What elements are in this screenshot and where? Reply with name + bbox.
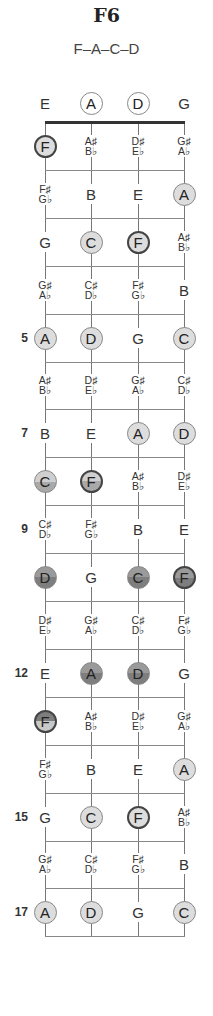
fret-line-7 (45, 457, 185, 458)
fret-cell: F♯G♭ (71, 511, 111, 547)
fret-cell: E (25, 655, 65, 691)
fret-cell: A (25, 320, 65, 356)
note-label: D (179, 425, 190, 442)
fret-cell: D♯E♭ (71, 367, 111, 403)
fret-cell: D♯E♭ (118, 128, 158, 164)
chord-tone-marker: A (127, 422, 150, 445)
flat-name: D♭ (178, 385, 191, 395)
flat-name: G♭ (38, 769, 51, 779)
fret-cell: G♯A♭ (25, 846, 65, 882)
fret-cell: F♯G♭ (118, 846, 158, 882)
note-label: G (39, 810, 51, 825)
chord-tone-marker: A (173, 758, 196, 781)
chord-tone-marker: A (80, 92, 103, 115)
fret-cell: G♯A♭ (71, 607, 111, 643)
chord-tone-marker: A (34, 901, 57, 924)
flat-name: B♭ (178, 817, 190, 827)
root-note-marker: F (80, 470, 103, 493)
fret-cell: E (118, 751, 158, 787)
flat-name: G♭ (131, 864, 144, 874)
fret-cell: G♯A♭ (164, 128, 204, 164)
note-label: G (132, 331, 144, 346)
chord-tone-marker: C (80, 231, 103, 254)
flat-name: E♭ (39, 625, 52, 635)
flat-name: E♭ (85, 385, 98, 395)
flat-name: G♭ (177, 625, 190, 635)
fret-line-10 (45, 601, 185, 602)
fret-cell: G (118, 894, 158, 930)
fret-cell: F (25, 703, 65, 739)
chord-tone-marker: C (173, 327, 196, 350)
fret-cell: D♯E♭ (118, 703, 158, 739)
note-enharmonic-label: G♯A♭ (177, 710, 190, 732)
fret-cell: F (164, 559, 204, 595)
fret-cell: G (118, 320, 158, 356)
note-enharmonic-label: A♯B♭ (39, 374, 51, 396)
fret-cell: G (164, 85, 204, 121)
note-label: B (40, 426, 50, 441)
fret-cell: C (118, 559, 158, 595)
fret-cell: D (71, 894, 111, 930)
note-enharmonic-label: G♯A♭ (84, 614, 97, 636)
fret-cell: A♯B♭ (25, 367, 65, 403)
note-enharmonic-label: G♯A♭ (38, 853, 51, 875)
fret-cell: F♯G♭ (164, 607, 204, 643)
fret-cell: B (25, 415, 65, 451)
note-label: F (40, 713, 49, 730)
fret-cell: D (71, 320, 111, 356)
fret-cell: G♯A♭ (25, 272, 65, 308)
note-label: A (86, 95, 96, 112)
flat-name: A♭ (177, 721, 190, 731)
chord-tone-marker: D (127, 92, 150, 115)
note-label: F (133, 234, 142, 251)
note-enharmonic-label: A♯B♭ (132, 470, 144, 492)
chord-tone-marker: A (34, 327, 57, 350)
note-enharmonic-label: G♯A♭ (177, 135, 190, 157)
fret-cell: F (118, 799, 158, 835)
note-label: D (86, 904, 97, 921)
fret-cell: F♯G♭ (25, 176, 65, 212)
fret-cell: A (164, 751, 204, 787)
chord-tone-marker: D (80, 901, 103, 924)
note-enharmonic-label: G♯A♭ (131, 374, 144, 396)
note-label: B (179, 283, 189, 298)
note-label: C (133, 569, 144, 586)
note-label: G (132, 905, 144, 920)
note-enharmonic-label: F♯G♭ (84, 518, 97, 540)
fret-cell: F♯G♭ (25, 751, 65, 787)
fret-cell: A (118, 415, 158, 451)
note-enharmonic-label: F♯G♭ (38, 183, 51, 205)
flat-name: G♭ (131, 290, 144, 300)
fret-line-15 (45, 841, 185, 842)
flat-name: E♭ (178, 481, 191, 491)
chord-tone-marker: A (80, 662, 103, 685)
note-enharmonic-label: A♯B♭ (85, 710, 97, 732)
fret-cell: G (25, 224, 65, 260)
note-enharmonic-label: F♯G♭ (131, 279, 144, 301)
chord-tone-marker: A (173, 183, 196, 206)
note-label: A (133, 425, 143, 442)
fret-cell: D♯E♭ (164, 463, 204, 499)
fret-cell: A♯B♭ (71, 128, 111, 164)
fret-line-6 (45, 409, 185, 410)
fret-cell: D♯E♭ (25, 607, 65, 643)
fret-cell: G (164, 655, 204, 691)
note-enharmonic-label: D♯E♭ (132, 710, 145, 732)
note-enharmonic-label: D♯E♭ (85, 374, 98, 396)
fret-cell: F (118, 224, 158, 260)
note-label: C (86, 234, 97, 251)
fret-cell: C♯D♭ (118, 607, 158, 643)
note-label: A (179, 186, 189, 203)
fret-line-2 (45, 218, 185, 219)
fret-line-4 (45, 314, 185, 315)
note-enharmonic-label: A♯B♭ (178, 806, 190, 828)
note-label: C (179, 904, 190, 921)
flat-name: G♭ (84, 529, 97, 539)
fret-cell: G (25, 799, 65, 835)
nut-line (45, 121, 185, 124)
flat-name: B♭ (85, 721, 97, 731)
flat-name: A♭ (38, 864, 51, 874)
chord-tone-marker: D (127, 662, 150, 685)
note-label: C (179, 330, 190, 347)
fret-cell: C♯D♭ (71, 272, 111, 308)
